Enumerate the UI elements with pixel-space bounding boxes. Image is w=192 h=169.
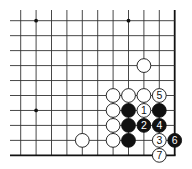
white-stone-icon — [106, 89, 120, 103]
white-stone-move-1: 1 — [137, 104, 151, 118]
white-stone — [106, 133, 120, 147]
white-stone — [137, 59, 151, 73]
move-number: 2 — [141, 119, 147, 131]
white-stone-move-7: 7 — [152, 148, 166, 162]
white-stone-icon — [137, 89, 151, 103]
white-stone — [106, 119, 120, 133]
white-stone-icon — [106, 104, 120, 118]
white-stone — [75, 133, 89, 147]
star-point-icon — [127, 19, 131, 23]
star-point-icon — [34, 109, 38, 113]
white-stone-icon — [106, 133, 120, 147]
black-stone-move-2: 2 — [137, 119, 151, 133]
black-stone-icon — [152, 104, 166, 118]
white-stone-icon — [75, 133, 89, 147]
white-stone-icon — [122, 89, 136, 103]
white-stone — [106, 89, 120, 103]
move-number: 7 — [156, 149, 162, 161]
white-stone — [106, 104, 120, 118]
black-stone — [122, 119, 136, 133]
move-number: 1 — [141, 104, 147, 116]
white-stone-move-3: 3 — [152, 133, 166, 147]
move-number: 6 — [172, 134, 178, 146]
black-stone-icon — [122, 104, 136, 118]
move-number: 3 — [156, 134, 162, 146]
grid-lines — [10, 10, 176, 155]
black-stone — [152, 104, 166, 118]
white-stone — [137, 89, 151, 103]
white-stone — [122, 89, 136, 103]
white-stone-move-5: 5 — [152, 89, 166, 103]
move-number: 4 — [156, 119, 162, 131]
black-stone-icon — [122, 133, 136, 147]
black-stone-icon — [122, 119, 136, 133]
black-stone-move-6: 6 — [168, 133, 182, 147]
black-stone — [122, 104, 136, 118]
move-number: 5 — [156, 89, 162, 101]
black-stone — [122, 133, 136, 147]
white-stone-icon — [106, 119, 120, 133]
star-point-icon — [34, 19, 38, 23]
go-board: 5124367 — [0, 0, 192, 169]
black-stone-move-4: 4 — [152, 119, 166, 133]
white-stone-icon — [137, 59, 151, 73]
